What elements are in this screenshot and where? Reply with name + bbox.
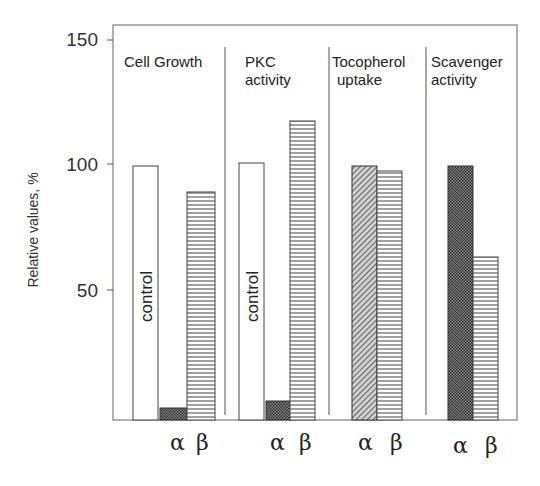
panel-title-scavenger-line1: Scavenger [431,53,503,70]
x-label-alpha: α [453,433,468,458]
panel-title-tocopherol-line2: uptake [337,71,382,88]
y-axis: 150 100 50 Relative values, % [25,29,113,301]
bar-beta [290,121,315,420]
bar-alpha [160,408,187,420]
y-axis-label: Relative values, % [25,172,41,287]
bar-beta [187,192,215,420]
bar-beta [473,257,498,420]
panel-title-scavenger-line2: activity [431,71,477,88]
bar-alpha [266,401,291,420]
panel-title-cell-growth: Cell Growth [124,53,202,70]
bar-label-control: control [137,271,156,322]
y-tick-100: 100 [66,154,98,175]
bar-label-control: control [243,271,262,322]
panel-title-pkc-line1: PKC [245,53,276,70]
x-label-alpha: α [358,430,373,455]
panel-pkc-activity: control [239,121,315,420]
panel-scavenger-activity [448,166,498,420]
x-label-beta: β [390,430,403,455]
panel-cell-growth: control [133,166,215,420]
x-label-alpha: α [170,430,185,455]
panel-tocopherol-uptake [352,166,402,420]
x-label-beta: β [485,433,498,458]
panel-title-pkc-line2: activity [245,71,291,88]
x-axis-labels: α β α β α β α β [170,430,498,458]
x-label-beta: β [196,430,209,455]
y-tick-50: 50 [77,280,98,301]
bar-alpha [448,166,473,420]
x-label-beta: β [299,430,312,455]
bar-beta [377,171,402,420]
panel-title-tocopherol-line1: Tocopherol [332,53,405,70]
bar-chart: 150 100 50 Relative values, % Cell Growt… [0,0,540,486]
y-tick-150: 150 [66,29,98,50]
x-label-alpha: α [270,430,285,455]
bar-alpha [352,166,377,420]
